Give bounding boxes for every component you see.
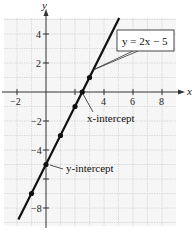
y-tick-label: −8 xyxy=(31,203,42,214)
x-tick-label: −2 xyxy=(10,96,21,107)
y-tick-label: 4 xyxy=(36,29,41,40)
x-intercept-label: x-intercept xyxy=(87,112,135,124)
graph: x y −2 4 6 8 4 2 −2 −4 −8 x-intercept y-… xyxy=(0,0,192,239)
data-point xyxy=(72,104,77,109)
y-intercept-label: y-intercept xyxy=(66,162,114,174)
y-axis-label: y xyxy=(41,0,47,11)
data-point xyxy=(58,133,63,138)
data-point xyxy=(43,162,48,167)
x-tick-label: 6 xyxy=(130,96,135,107)
data-point xyxy=(87,75,92,80)
y-tick-label: −2 xyxy=(31,116,42,127)
y-tick-label: −4 xyxy=(31,145,42,156)
x-axis-arrow-icon xyxy=(178,90,185,95)
y-tick-label: 2 xyxy=(36,58,41,69)
x-axis-label: x xyxy=(186,85,192,97)
x-tick-label: 8 xyxy=(159,96,164,107)
data-point xyxy=(29,191,34,196)
x-tick-label: 4 xyxy=(101,96,106,107)
equation-label: y = 2x − 5 xyxy=(122,35,168,47)
data-point xyxy=(80,89,85,94)
